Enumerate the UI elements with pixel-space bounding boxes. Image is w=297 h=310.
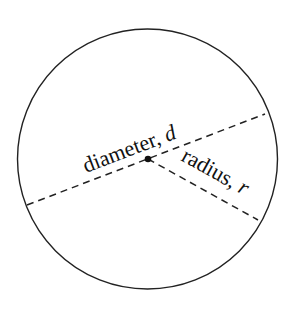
- diameter-label: diameter, d: [79, 119, 180, 178]
- center-point: [145, 156, 152, 163]
- svg-text:radius, r: radius, r: [178, 143, 255, 201]
- circle-diagram: diameter, d radius, r: [0, 0, 297, 310]
- svg-text:diameter, d: diameter, d: [79, 119, 180, 178]
- radius-label-word: radius,: [178, 143, 247, 196]
- diameter-label-word: diameter,: [79, 123, 169, 177]
- radius-label: radius, r: [178, 143, 255, 201]
